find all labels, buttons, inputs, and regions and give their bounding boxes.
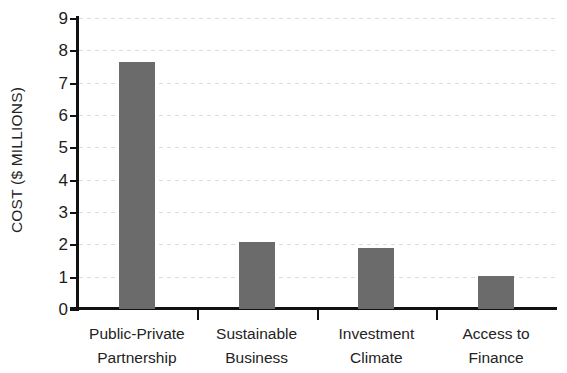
plot-area: 9876543210: [77, 18, 556, 309]
bar: [239, 242, 275, 309]
x-axis-label-line: Finance: [436, 346, 556, 370]
y-axis-tick-label: 1: [59, 268, 68, 285]
bar-series: [77, 18, 556, 309]
y-axis-tick-label: 0: [59, 301, 68, 318]
x-axis-label: InvestmentClimate: [317, 322, 437, 373]
y-axis-tick-label: 2: [59, 236, 68, 253]
x-axis-tick: [317, 309, 319, 320]
bar: [119, 62, 155, 309]
x-axis-label: Public-PrivatePartnership: [77, 322, 197, 373]
bar: [358, 248, 394, 309]
y-axis-tick-label: 9: [59, 10, 68, 27]
bar-chart: COST ($ MILLIONS) 9876543210 Public-Priv…: [0, 0, 567, 373]
x-axis-label-line: Partnership: [77, 346, 197, 370]
y-axis-title: COST ($ MILLIONS): [4, 10, 30, 310]
y-axis-tick-label: 4: [59, 171, 68, 188]
x-axis-label-line: Sustainable: [197, 322, 317, 346]
x-axis-label: Access toFinance: [436, 322, 556, 373]
y-axis-tick-label: 5: [59, 139, 68, 156]
y-axis-tick-label: 3: [59, 204, 68, 221]
bar: [478, 276, 514, 309]
y-axis-tick: [70, 309, 78, 311]
x-axis-label-line: Public-Private: [77, 322, 197, 346]
y-axis-tick-label: 6: [59, 107, 68, 124]
x-axis-label-line: Investment: [317, 322, 437, 346]
x-axis-label: SustainableBusiness: [197, 322, 317, 373]
x-axis-label-line: Business: [197, 346, 317, 370]
x-axis-labels: Public-PrivatePartnershipSustainableBusi…: [77, 322, 556, 373]
x-axis-label-line: Climate: [317, 346, 437, 370]
y-axis-tick-label: 7: [59, 74, 68, 91]
x-axis-label-line: Access to: [436, 322, 556, 346]
y-axis-tick-label: 8: [59, 42, 68, 59]
x-axis-tick: [436, 309, 438, 320]
x-axis-tick: [197, 309, 199, 320]
